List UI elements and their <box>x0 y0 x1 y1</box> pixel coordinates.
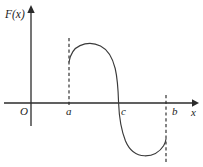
graph-canvas <box>0 0 203 167</box>
function-graph-figure: F(x) O a c b x <box>0 0 203 167</box>
x-axis-label: x <box>191 107 196 118</box>
tick-label-b: b <box>172 106 178 117</box>
origin-label: O <box>20 106 28 117</box>
tick-label-c: c <box>121 106 126 117</box>
y-axis-label: F(x) <box>5 9 25 21</box>
tick-label-a: a <box>66 106 72 117</box>
function-curve <box>69 44 166 156</box>
y-axis-arrowhead <box>27 5 34 13</box>
